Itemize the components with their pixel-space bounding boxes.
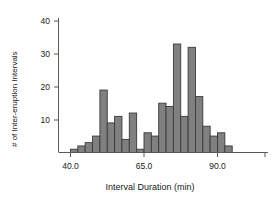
- histogram-bar: [107, 123, 114, 153]
- y-tick-label-20: 20: [41, 82, 51, 92]
- histogram-bar: [159, 103, 166, 152]
- histogram-bar: [122, 139, 129, 152]
- histogram-bar: [225, 146, 232, 153]
- x-axis-title: Interval Duration (min): [105, 182, 194, 192]
- chart-canvas: # of Inter-eruption Intervals 40 30 20 1…: [0, 0, 279, 201]
- histogram-bar: [129, 113, 136, 152]
- y-tick-label-30: 30: [41, 49, 51, 59]
- histogram-bar: [210, 136, 217, 152]
- histogram-bar: [100, 90, 107, 152]
- histogram-bar: [93, 136, 100, 152]
- histogram-bar: [188, 47, 195, 152]
- histogram-chart: # of Inter-eruption Intervals 40 30 20 1…: [0, 0, 279, 201]
- x-tick-label-90: 90.0: [209, 161, 226, 171]
- histogram-bar: [78, 146, 85, 153]
- x-tick-label-65: 65.0: [136, 161, 153, 171]
- x-tick-label-40: 40.0: [62, 161, 79, 171]
- histogram-bar: [173, 44, 180, 152]
- histogram-bar: [85, 143, 92, 153]
- bars-group: [71, 44, 233, 152]
- histogram-bar: [151, 136, 158, 152]
- histogram-bar: [181, 116, 188, 152]
- histogram-bar: [195, 97, 202, 153]
- histogram-bar: [166, 106, 173, 152]
- y-tick-label-10: 10: [41, 115, 51, 125]
- histogram-bar: [144, 133, 151, 153]
- y-axis-title: # of Inter-eruption Intervals: [10, 51, 19, 147]
- histogram-bar: [218, 133, 225, 153]
- y-tick-label-40: 40: [41, 16, 51, 26]
- histogram-bar: [115, 116, 122, 152]
- histogram-bar: [203, 126, 210, 152]
